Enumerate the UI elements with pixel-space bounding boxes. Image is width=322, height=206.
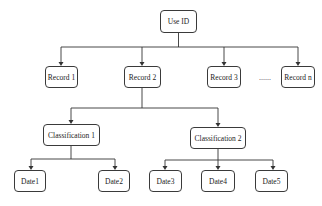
node-date5: Date5 — [255, 170, 288, 192]
node-label: Record 3 — [210, 73, 237, 82]
node-label: Use ID — [168, 17, 189, 26]
node-record-3: Record 3 — [207, 66, 241, 88]
tree-diagram: Use ID Record 1 Record 2 Record 3 ......… — [0, 0, 322, 206]
node-date1: Date1 — [14, 170, 46, 192]
node-label: Record 1 — [48, 73, 75, 82]
node-use-id: Use ID — [160, 10, 197, 33]
node-label: Date4 — [209, 177, 227, 186]
node-label: Record 2 — [129, 73, 156, 82]
node-label: Date5 — [263, 177, 281, 186]
node-label: Classification 1 — [48, 131, 95, 140]
node-date3: Date3 — [149, 170, 182, 192]
node-record-n: Record n — [281, 66, 315, 88]
node-label: Classification 2 — [195, 134, 242, 143]
node-classification-1: Classification 1 — [43, 124, 100, 146]
node-date2: Date2 — [98, 170, 130, 192]
node-label: Date3 — [157, 177, 175, 186]
node-label: Date1 — [21, 177, 39, 186]
node-label: Record n — [284, 73, 311, 82]
node-classification-2: Classification 2 — [190, 127, 246, 149]
node-record-2: Record 2 — [124, 66, 161, 88]
ellipsis-text: ...... — [259, 73, 271, 82]
node-date4: Date4 — [201, 170, 235, 192]
node-record-1: Record 1 — [45, 66, 78, 88]
node-label: Date2 — [105, 177, 123, 186]
